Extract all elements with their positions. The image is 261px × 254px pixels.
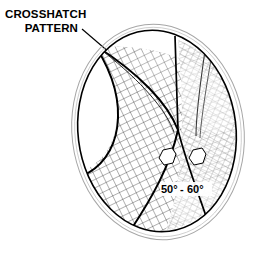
angle-label-60: 60° <box>187 183 204 195</box>
callout-label: CROSSHATCH PATTERN <box>5 8 86 34</box>
diagram-canvas: CROSSHATCH PATTERN <box>0 0 261 254</box>
callout-line-1: CROSSHATCH <box>5 8 86 20</box>
callout-line-2: PATTERN <box>25 22 78 34</box>
crosshatch-pattern-figure: CROSSHATCH PATTERN <box>0 0 261 254</box>
angle-label-50: 50° <box>161 183 178 195</box>
angle-label-separator: - <box>180 183 184 195</box>
angle-label-group: 50° - 60° <box>160 182 212 196</box>
veil-top <box>124 52 176 88</box>
